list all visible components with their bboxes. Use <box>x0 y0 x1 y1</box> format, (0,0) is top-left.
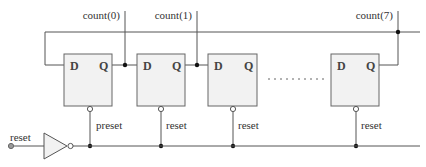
reset-input-label: reset <box>10 131 31 143</box>
reset-label: reset <box>361 119 382 131</box>
count0-label: count(0) <box>83 9 121 22</box>
d-pin-label: D <box>337 59 346 73</box>
inverter-bubble-icon <box>68 143 73 148</box>
flip-flop-0: D Q preset <box>64 54 122 148</box>
flip-flop-1: D Q reset <box>137 54 187 148</box>
inversion-bubble-icon <box>230 106 235 111</box>
junction-dot <box>195 63 199 67</box>
inverter-icon <box>44 133 67 159</box>
d-pin-label: D <box>70 59 79 73</box>
d-pin-label: D <box>214 59 223 73</box>
junction-dot <box>396 30 400 34</box>
count7-label: count(7) <box>356 9 394 22</box>
ring-counter-diagram: count(0) count(1) count(7) D Q preset D … <box>0 0 426 167</box>
flip-flop-2: D Q reset <box>208 54 259 148</box>
d-pin-label: D <box>143 59 152 73</box>
preset-label: preset <box>96 119 122 131</box>
q-pin-label: Q <box>99 59 108 73</box>
junction-dot <box>123 63 127 67</box>
q-pin-label: Q <box>244 59 253 73</box>
reset-label: reset <box>166 119 187 131</box>
q-pin-label: Q <box>366 59 375 73</box>
inversion-bubble-icon <box>87 106 92 111</box>
reset-label: reset <box>238 119 259 131</box>
inversion-bubble-icon <box>353 106 358 111</box>
flip-flop-7: D Q reset <box>331 54 382 148</box>
inversion-bubble-icon <box>158 106 163 111</box>
input-terminal-icon <box>8 143 13 148</box>
reset-input: reset <box>8 131 420 159</box>
count1-label: count(1) <box>155 9 193 22</box>
q-pin-label: Q <box>172 59 181 73</box>
